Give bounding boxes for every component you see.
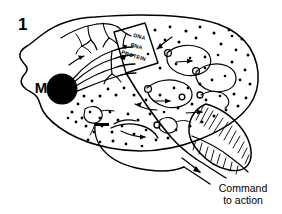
brainstem-output-tract (95, 125, 226, 184)
figure-root: DNA RNA PROTEIN (0, 0, 282, 214)
brain-schematic-svg: DNA RNA PROTEIN (0, 0, 282, 214)
midbrain-divide (95, 73, 170, 138)
panel-number: 1 (18, 15, 27, 34)
motor-soma-label: M (35, 79, 48, 96)
output-caption-line2: to action (223, 194, 263, 206)
central-dogma-dna: DNA (133, 32, 146, 41)
filled-black-soma-circle (47, 74, 78, 105)
output-caption-line1: Command (219, 182, 268, 194)
output-caption: Command to action (219, 182, 268, 206)
central-dogma-rna: RNA (130, 41, 143, 50)
